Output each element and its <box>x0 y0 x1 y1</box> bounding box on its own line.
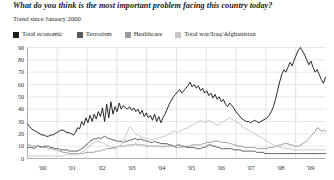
legend-item-3[interactable]: Healthcare <box>125 31 163 38</box>
x-axis-tick-label: '09 <box>307 164 315 171</box>
legend-swatch-icon <box>13 32 19 38</box>
legend-item-4[interactable]: Total war/Iraq/Afghanistan <box>175 31 256 38</box>
y-axis-tick-label: 50 <box>18 94 24 100</box>
legend-item-label: Total war/Iraq/Afghanistan <box>184 31 256 38</box>
y-axis-tick-label: 30 <box>18 119 24 125</box>
page-title: What do you think is the most important … <box>13 1 272 10</box>
x-axis-tick-label: '04 <box>158 164 166 171</box>
chart-subtitle: Trend since January 2000 <box>13 15 81 22</box>
legend-swatch-icon <box>125 32 131 38</box>
x-axis-tick-label: '00 <box>39 164 47 171</box>
y-axis-tick-label: 10 <box>18 143 24 149</box>
gridlines <box>28 48 326 159</box>
chart-legend: Total economicTerrorismHealthcareTotal w… <box>13 29 256 40</box>
legend-item-label: Total economic <box>22 31 63 38</box>
legend-swatch-icon <box>77 32 83 38</box>
x-axis-tick-label: '05 <box>188 164 196 171</box>
line-chart-svg: 0102030405060708090 '00'01'02'03'04'05'0… <box>0 42 334 180</box>
legend-item-label: Healthcare <box>134 31 163 38</box>
chart-page: What do you think is the most important … <box>0 0 334 180</box>
y-axis-labels: 0102030405060708090 <box>18 45 24 162</box>
x-axis-tick-label: '01 <box>68 164 76 171</box>
y-axis-tick-label: 20 <box>18 131 24 137</box>
x-axis-labels: '00'01'02'03'04'05'06'07'08'09 <box>39 164 315 171</box>
x-axis-tick-label: '07 <box>247 164 255 171</box>
x-axis-tick-label: '03 <box>128 164 136 171</box>
x-axis-tick-label: '08 <box>277 164 285 171</box>
legend-item-2[interactable]: Terrorism <box>77 31 112 38</box>
y-axis-tick-label: 80 <box>18 57 24 63</box>
legend-swatch-icon <box>175 32 181 38</box>
y-axis-tick-label: 0 <box>21 156 24 162</box>
legend-item-1[interactable]: Total economic <box>13 31 63 38</box>
x-axis-tick-label: '02 <box>98 164 106 171</box>
x-axis-tick-label: '06 <box>217 164 225 171</box>
y-axis-tick-label: 90 <box>18 45 24 51</box>
plot-area: 0102030405060708090 '00'01'02'03'04'05'0… <box>0 42 334 180</box>
y-axis-tick-label: 70 <box>18 69 24 75</box>
y-axis-tick-label: 60 <box>18 82 24 88</box>
y-axis-tick-label: 40 <box>18 106 24 112</box>
legend-item-label: Terrorism <box>86 31 112 38</box>
